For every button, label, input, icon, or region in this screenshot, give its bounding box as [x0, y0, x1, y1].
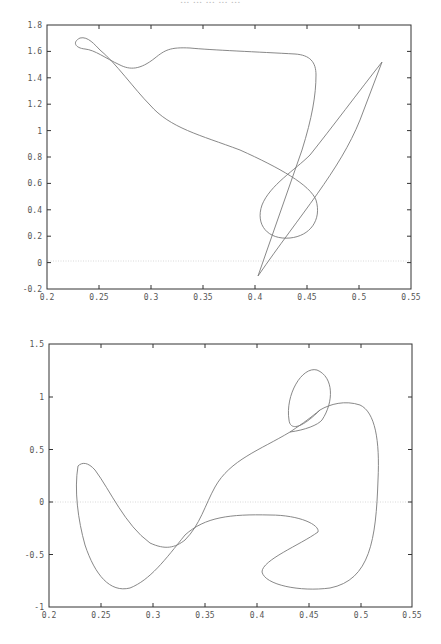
svg-text:0.6: 0.6: [28, 179, 43, 188]
svg-text:0.3: 0.3: [146, 611, 161, 620]
svg-text:0.3: 0.3: [144, 293, 159, 302]
bottom-y-ticks: [49, 397, 412, 555]
bottom-plot-frame: [49, 344, 412, 607]
svg-text:0.25: 0.25: [91, 611, 110, 620]
svg-text:0.4: 0.4: [28, 206, 43, 215]
top-y-labels: 1.8 1.6 1.4 1.2 1 0.8 0.6 0.4 0.2 0 -0.2: [23, 21, 42, 294]
bottom-chart: 1.5 1 0.5 0 -0.5 -1 0.2 0.25 0.3 0.35 0.…: [25, 340, 422, 620]
svg-text:0.5: 0.5: [352, 293, 367, 302]
top-y-ticks: [47, 51, 411, 262]
svg-text:0.2: 0.2: [28, 232, 43, 241]
svg-text:0.55: 0.55: [402, 611, 421, 620]
svg-text:0: 0: [39, 498, 44, 507]
svg-text:0.2: 0.2: [42, 611, 57, 620]
svg-text:0: 0: [37, 259, 42, 268]
top-chart: 1.8 1.6 1.4 1.2 1 0.8 0.6 0.4 0.2 0 -0.2…: [23, 21, 421, 302]
svg-text:0.25: 0.25: [89, 293, 108, 302]
bottom-y-labels: 1.5 1 0.5 0 -0.5 -1: [25, 340, 44, 612]
bottom-x-labels: 0.2 0.25 0.3 0.35 0.4 0.45 0.5 0.55: [42, 611, 422, 620]
svg-text:1.6: 1.6: [28, 47, 43, 56]
top-x-ticks: [99, 25, 359, 289]
svg-text:1.4: 1.4: [28, 74, 43, 83]
svg-text:0.5: 0.5: [354, 611, 369, 620]
top-x-labels: 0.2 0.25 0.3 0.35 0.4 0.45 0.5 0.55: [40, 293, 421, 302]
svg-text:0.2: 0.2: [40, 293, 55, 302]
svg-text:-0.5: -0.5: [25, 551, 44, 560]
svg-text:1: 1: [37, 127, 42, 136]
bottom-x-ticks: [101, 344, 361, 607]
top-plot-frame: [47, 25, 411, 289]
top-trajectory-curve: [75, 38, 382, 276]
svg-text:0.8: 0.8: [28, 153, 43, 162]
svg-text:0.45: 0.45: [299, 611, 318, 620]
svg-text:0.4: 0.4: [250, 611, 265, 620]
charts-canvas: 1.8 1.6 1.4 1.2 1 0.8 0.6 0.4 0.2 0 -0.2…: [0, 0, 441, 644]
svg-text:0.45: 0.45: [297, 293, 316, 302]
svg-text:1.5: 1.5: [30, 340, 45, 349]
svg-text:0.55: 0.55: [401, 293, 420, 302]
svg-text:0.4: 0.4: [248, 293, 263, 302]
svg-text:0.35: 0.35: [193, 293, 212, 302]
svg-text:1: 1: [39, 393, 44, 402]
svg-text:0.5: 0.5: [30, 446, 45, 455]
svg-text:0.35: 0.35: [195, 611, 214, 620]
svg-text:1.8: 1.8: [28, 21, 43, 30]
bottom-trajectory-curve: [76, 370, 378, 589]
svg-text:1.2: 1.2: [28, 100, 43, 109]
